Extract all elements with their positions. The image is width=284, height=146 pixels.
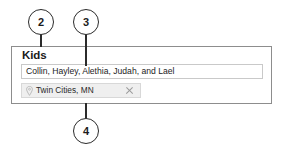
callout-marker-2: 2 (28, 9, 54, 35)
figure-canvas: 2 3 4 Kids Collin, Hayley, Alethia, Juda… (0, 0, 284, 146)
names-input-value: Collin, Hayley, Alethia, Judah, and Lael (26, 67, 174, 76)
callout-number-2: 2 (38, 17, 44, 28)
names-input[interactable]: Collin, Hayley, Alethia, Judah, and Lael (21, 64, 263, 79)
callout-leader-line-4 (85, 103, 87, 119)
close-icon[interactable] (125, 86, 134, 95)
map-pin-icon (26, 86, 33, 96)
callout-marker-4: 4 (73, 118, 99, 144)
kids-panel: Kids Collin, Hayley, Alethia, Judah, and… (11, 46, 272, 104)
callout-number-3: 3 (83, 17, 89, 28)
location-chip[interactable]: Twin Cities, MN (21, 83, 141, 98)
callout-number-4: 4 (83, 126, 89, 137)
callout-leader-line-3 (85, 34, 87, 66)
panel-title: Kids (22, 49, 47, 61)
location-chip-label: Twin Cities, MN (36, 86, 125, 94)
callout-leader-line-2 (40, 34, 42, 47)
callout-marker-3: 3 (73, 9, 99, 35)
